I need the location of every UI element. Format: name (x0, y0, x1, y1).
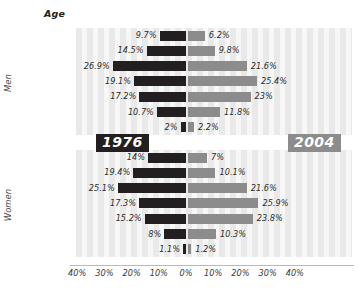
chart-row: 15–199.7%6.2% (76, 28, 352, 43)
group-label-women: Women (3, 185, 13, 225)
value-label-2004: 7% (211, 152, 224, 163)
value-label-1976: 15.2% (116, 213, 142, 224)
bar-1976 (160, 31, 186, 41)
bar-1976 (134, 76, 186, 86)
value-label-1976: 14% (127, 152, 145, 163)
bar-2004 (188, 31, 205, 41)
bar-2004 (188, 92, 251, 102)
value-label-1976: 25.1% (89, 183, 115, 194)
value-label-2004: 25.4% (261, 76, 287, 87)
bar-1976 (147, 46, 186, 56)
chart-row: 20–2419.4%10.1% (76, 165, 352, 180)
value-label-1976: 14.5% (118, 45, 144, 56)
bar-2004 (188, 198, 258, 208)
value-label-1976: 8% (148, 229, 161, 240)
value-label-2004: 23% (255, 91, 273, 102)
bar-1976 (118, 183, 186, 193)
chart-row: 35–4417.3%25.9% (76, 196, 352, 211)
chart-row: 55–648%10.3% (76, 226, 352, 241)
value-label-2004: 23.8% (257, 213, 283, 224)
panel-men: 15–199.7%6.2%20–2414.5%9.8%25–3426.9%21.… (76, 28, 352, 135)
chart-row: 25–3425.1%21.6% (76, 181, 352, 196)
value-label-1976: 2% (165, 122, 178, 133)
bar-2004 (188, 244, 191, 254)
bar-2004 (188, 229, 216, 239)
chart-row: 65 +1.1%1.2% (76, 242, 352, 257)
bar-2004 (188, 61, 247, 71)
bar-2004 (188, 107, 220, 117)
chart-row: 35–4419.1%25.4% (76, 74, 352, 89)
value-label-1976: 19.1% (105, 76, 131, 87)
value-label-1976: 26.9% (84, 61, 110, 72)
bar-1976 (113, 61, 186, 71)
panel-women: 15–1914%7%20–2419.4%10.1%25–3425.1%21.6%… (76, 150, 352, 257)
bar-2004 (188, 122, 194, 132)
value-label-1976: 9.7% (136, 30, 157, 41)
bar-2004 (188, 46, 215, 56)
era-badge-1976: 1976 (96, 134, 149, 152)
era-badge-2004: 2004 (288, 134, 341, 152)
age-axis-title: Age (44, 8, 65, 19)
bar-1976 (139, 92, 186, 102)
bar-2004 (188, 153, 207, 163)
value-label-2004: 21.6% (251, 61, 277, 72)
value-label-1976: 1.1% (159, 244, 180, 255)
x-axis-line (70, 265, 354, 266)
bar-1976 (181, 122, 186, 132)
chart-row: 55–6410.7%11.8% (76, 104, 352, 119)
population-pyramid-chart: Age Men Women 15–199.7%6.2%20–2414.5%9.8… (0, 0, 364, 293)
bar-1976 (148, 153, 186, 163)
bar-2004 (188, 214, 253, 224)
value-label-1976: 17.2% (110, 91, 136, 102)
value-label-2004: 1.2% (195, 244, 216, 255)
chart-row: 15–1914%7% (76, 150, 352, 165)
chart-row: 45–5415.2%23.8% (76, 211, 352, 226)
value-label-2004: 11.8% (224, 107, 250, 118)
bar-2004 (188, 183, 247, 193)
chart-row: 25–3426.9%21.6% (76, 59, 352, 74)
bar-1976 (157, 107, 186, 117)
group-label-men: Men (3, 63, 13, 103)
bar-2004 (188, 168, 215, 178)
value-label-2004: 25.9% (262, 198, 288, 209)
bar-1976 (145, 214, 186, 224)
bar-2004 (188, 76, 257, 86)
bar-1976 (139, 198, 186, 208)
value-label-2004: 2.2% (198, 122, 219, 133)
chart-row: 20–2414.5%9.8% (76, 43, 352, 58)
value-label-2004: 10.3% (220, 229, 246, 240)
chart-row: 45–5417.2%23% (76, 89, 352, 104)
bar-1976 (164, 229, 186, 239)
bar-1976 (183, 244, 186, 254)
value-label-1976: 19.4% (104, 167, 130, 178)
value-label-2004: 10.1% (219, 167, 245, 178)
value-label-2004: 21.6% (251, 183, 277, 194)
bar-1976 (133, 168, 186, 178)
value-label-2004: 6.2% (209, 30, 230, 41)
value-label-2004: 9.8% (219, 45, 240, 56)
value-label-1976: 17.3% (110, 198, 136, 209)
x-tick-label: 40% (275, 268, 315, 278)
chart-row: 65 +2%2.2% (76, 120, 352, 135)
value-label-1976: 10.7% (128, 107, 154, 118)
